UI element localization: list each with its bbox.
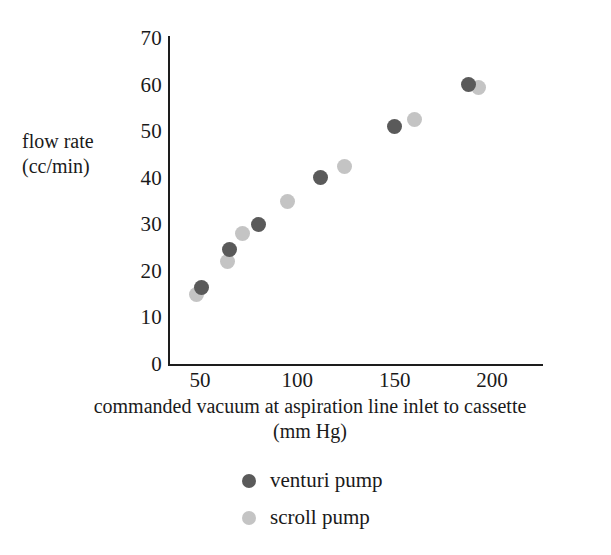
x-tick-label-150: 150: [365, 368, 425, 392]
y-tick-label-60: 60: [120, 75, 162, 96]
y-axis-title-line2: (cc/min): [22, 154, 142, 179]
chart-legend: venturi pumpscroll pump: [0, 462, 611, 536]
x-axis-title-line2: (mm Hg): [60, 419, 560, 444]
legend-marker-icon: [242, 511, 256, 525]
data-point-scroll-pump-3: [280, 194, 295, 209]
legend-item-venturi-pump: venturi pump: [0, 462, 611, 499]
data-point-scroll-pump-2: [235, 226, 250, 241]
y-axis-line: [168, 36, 170, 366]
legend-marker-icon: [242, 474, 256, 488]
legend-item-scroll-pump: scroll pump: [0, 499, 611, 536]
x-axis-title-line1: commanded vacuum at aspiration line inle…: [60, 394, 560, 419]
data-point-venturi-pump-2: [251, 217, 266, 232]
data-point-venturi-pump-0: [194, 280, 209, 295]
data-point-scroll-pump-4: [337, 159, 352, 174]
x-axis-line: [168, 364, 543, 366]
x-tick-label-100: 100: [267, 368, 327, 392]
legend-label: venturi pump: [270, 470, 383, 491]
x-tick-label-50: 50: [170, 368, 230, 392]
scatter-chart: 010203040506070 50100150200 flow rate (c…: [0, 0, 611, 555]
legend-label: scroll pump: [270, 507, 370, 528]
y-tick-label-20: 20: [120, 261, 162, 282]
data-point-venturi-pump-4: [387, 119, 402, 134]
y-tick-label-70: 70: [120, 28, 162, 49]
x-axis-title: commanded vacuum at aspiration line inle…: [60, 394, 560, 444]
data-point-scroll-pump-5: [407, 112, 422, 127]
x-tick-label-200: 200: [462, 368, 522, 392]
data-point-venturi-pump-1: [222, 242, 237, 257]
y-axis-title: flow rate (cc/min): [22, 129, 142, 179]
y-tick-label-10: 10: [120, 307, 162, 328]
data-point-venturi-pump-3: [313, 170, 328, 185]
y-axis-title-line1: flow rate: [22, 129, 142, 154]
y-tick-label-0: 0: [120, 354, 162, 375]
y-tick-label-30: 30: [120, 214, 162, 235]
